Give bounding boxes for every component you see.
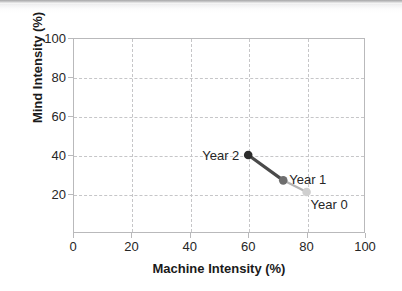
- x-axis-tick-label: 40: [183, 239, 197, 254]
- chart-figure: Machine Intensity (%) Mind Intensity (%)…: [0, 0, 402, 291]
- y-axis-tick-mark: [68, 155, 73, 156]
- y-axis-tick-mark: [68, 116, 73, 117]
- y-axis-tick-mark: [68, 194, 73, 195]
- x-axis-tick-label: 80: [299, 239, 313, 254]
- x-axis-tick-label: 60: [241, 239, 255, 254]
- y-axis-tick-label: 100: [44, 31, 66, 46]
- y-axis-tick-label: 40: [52, 148, 66, 163]
- x-axis-tick-label: 20: [124, 239, 138, 254]
- data-point-label: Year 2: [202, 148, 239, 163]
- x-axis-tick-mark: [365, 233, 366, 238]
- y-axis-title: Mind Intensity (%): [30, 0, 45, 165]
- y-axis-tick-label: 60: [52, 109, 66, 124]
- x-axis-tick-mark: [190, 233, 191, 238]
- data-point-label: Year 0: [311, 197, 348, 212]
- data-point-marker[interactable]: [302, 188, 311, 197]
- y-axis-tick-label: 20: [52, 187, 66, 202]
- y-axis-tick-mark: [68, 38, 73, 39]
- x-axis-tick-label: 0: [69, 239, 76, 254]
- data-point-marker[interactable]: [244, 151, 253, 160]
- y-axis-tick-mark: [68, 77, 73, 78]
- x-axis-title: Machine Intensity (%): [73, 261, 365, 276]
- x-axis-tick-mark: [307, 233, 308, 238]
- x-axis-tick-mark: [248, 233, 249, 238]
- x-axis-tick-mark: [73, 233, 74, 238]
- data-point-marker[interactable]: [279, 176, 288, 185]
- x-axis-tick-mark: [131, 233, 132, 238]
- data-point-label: Year 1: [289, 172, 326, 187]
- series-segment: [248, 155, 283, 180]
- y-axis-tick-label: 80: [52, 70, 66, 85]
- x-axis-tick-label: 100: [354, 239, 376, 254]
